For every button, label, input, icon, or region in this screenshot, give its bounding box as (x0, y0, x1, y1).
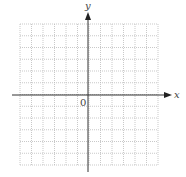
coordinate-plane: x y 0 (0, 0, 186, 177)
y-axis-label: y (84, 0, 91, 11)
origin-label: 0 (80, 97, 86, 108)
x-axis-arrow-icon (164, 92, 172, 98)
x-axis-label: x (174, 89, 180, 100)
y-axis-arrow-icon (85, 12, 91, 20)
